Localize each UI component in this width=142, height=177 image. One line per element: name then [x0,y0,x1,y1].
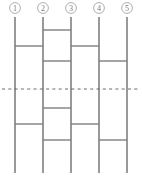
strand-label-3: 3 [66,3,77,14]
strand-label-text-4: 4 [97,4,101,13]
strand-label-text-1: 1 [13,4,17,13]
strand-label-1: 1 [10,3,21,14]
strand-label-text-2: 2 [41,4,45,13]
braid-canvas: 1 2 3 4 5 [0,0,142,177]
strand-label-4: 4 [94,3,105,14]
strand-label-text-3: 3 [69,4,73,13]
braid-diagram: 1 2 3 4 5 [0,0,142,177]
strand-label-2: 2 [38,3,49,14]
strand-label-text-5: 5 [125,4,129,13]
strand-label-5: 5 [122,3,133,14]
strand-group [15,17,127,173]
strand-label-group: 1 2 3 4 5 [10,3,133,14]
